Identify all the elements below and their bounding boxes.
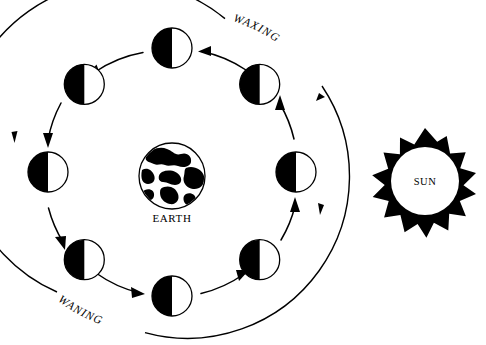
- sun[interactable]: SUN: [372, 128, 476, 238]
- moon-right-dark-half: [276, 152, 296, 192]
- inner-arrowhead-left-to-lower-left: [55, 236, 66, 250]
- moon-right[interactable]: [276, 152, 316, 192]
- inner-arrowhead-right-to-upper-right: [275, 95, 285, 110]
- waxing-label: WAXING: [232, 12, 282, 45]
- moon-lower-left[interactable]: [64, 240, 104, 280]
- inner-arrowhead-upper-right-to-top: [198, 46, 211, 56]
- moon-upper-left-dark-half: [64, 64, 84, 104]
- outer-arrowhead-bottom-right: [318, 203, 324, 215]
- moon-upper-left[interactable]: [64, 64, 104, 104]
- outer-arrowhead-left: [12, 131, 18, 143]
- earth[interactable]: EARTH: [139, 143, 205, 224]
- moon-phase-diagram: WAXING WANING: [0, 0, 486, 345]
- inner-arc-top-to-upper-left: [95, 53, 143, 73]
- moon-lower-left-dark-half: [64, 240, 84, 280]
- waning-label: WANING: [56, 293, 105, 327]
- moon-lower-right[interactable]: [240, 240, 280, 280]
- moon-top-dark-half: [152, 28, 172, 68]
- inner-arrowhead-lower-left-to-bottom: [131, 287, 145, 298]
- earth-label: EARTH: [152, 212, 191, 224]
- moon-bottom[interactable]: [152, 276, 192, 316]
- inner-arc-bottom-to-lower-right: [201, 274, 244, 294]
- outer-arrowhead-top-right: [316, 93, 325, 101]
- moon-phase-illustration: WAXING WANING: [0, 0, 486, 345]
- moon-upper-right[interactable]: [240, 64, 280, 104]
- moon-bottom-dark-half: [152, 276, 172, 316]
- moon-left-dark-half: [28, 152, 48, 192]
- inner-arrowhead-upper-left-to-left: [43, 133, 53, 148]
- waxing-label-text: WAXING: [232, 12, 282, 45]
- inner-arrowhead-lower-right-to-right: [290, 197, 300, 212]
- moon-top[interactable]: [152, 28, 192, 68]
- sun-label: SUN: [414, 176, 437, 187]
- moon-upper-right-dark-half: [240, 64, 260, 104]
- moon-left[interactable]: [28, 152, 68, 192]
- waning-label-text: WANING: [56, 293, 105, 327]
